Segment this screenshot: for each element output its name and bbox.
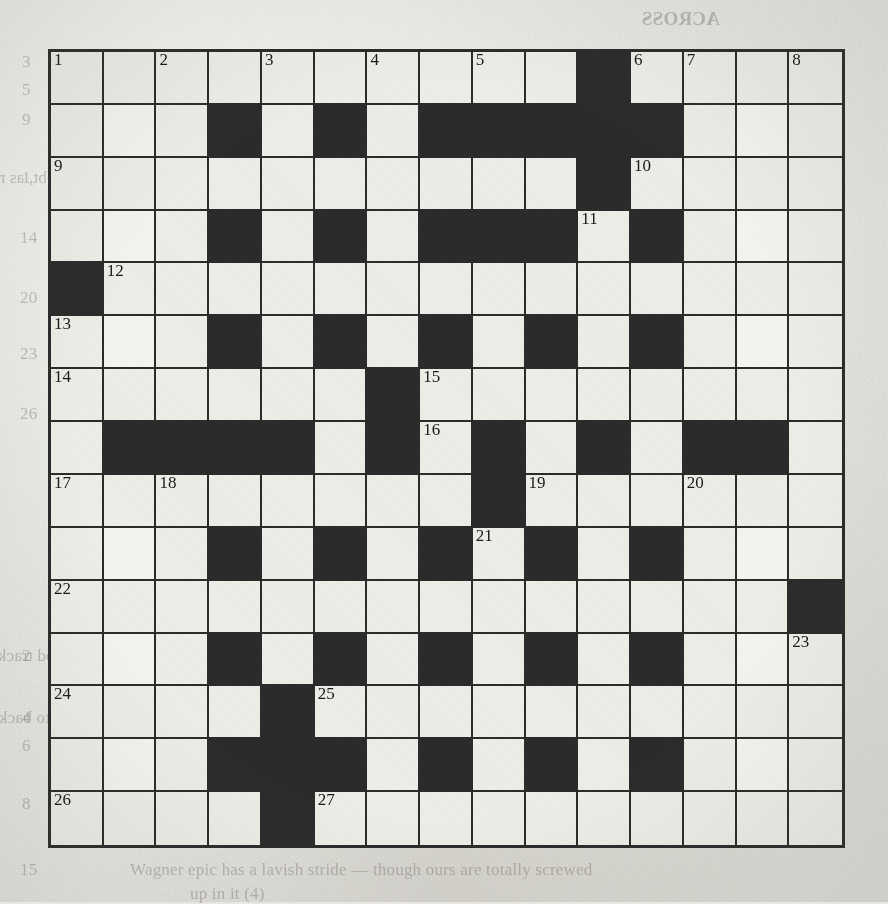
grid-cell[interactable] bbox=[578, 792, 631, 845]
grid-cell[interactable]: 19 bbox=[526, 475, 579, 528]
grid-cell[interactable] bbox=[367, 792, 420, 845]
grid-cell[interactable] bbox=[789, 739, 842, 792]
grid-cell[interactable] bbox=[262, 105, 315, 158]
grid-cell[interactable] bbox=[367, 158, 420, 211]
grid-cell[interactable] bbox=[104, 369, 157, 422]
grid-cell[interactable] bbox=[631, 369, 684, 422]
grid-cell[interactable] bbox=[526, 792, 579, 845]
grid-cell[interactable] bbox=[473, 739, 526, 792]
grid-cell[interactable] bbox=[578, 263, 631, 316]
grid-cell[interactable] bbox=[737, 105, 790, 158]
grid-cell[interactable] bbox=[104, 634, 157, 687]
grid-cell[interactable] bbox=[262, 475, 315, 528]
grid-cell[interactable] bbox=[737, 52, 790, 105]
grid-cell[interactable]: 25 bbox=[315, 686, 368, 739]
grid-cell[interactable]: 3 bbox=[262, 52, 315, 105]
grid-cell[interactable] bbox=[315, 422, 368, 475]
grid-cell[interactable] bbox=[209, 158, 262, 211]
grid-cell[interactable] bbox=[315, 263, 368, 316]
grid-cell[interactable] bbox=[51, 422, 104, 475]
grid-cell[interactable]: 24 bbox=[51, 686, 104, 739]
grid-cell[interactable]: 21 bbox=[473, 528, 526, 581]
grid-cell[interactable]: 12 bbox=[104, 263, 157, 316]
grid-cell[interactable] bbox=[104, 739, 157, 792]
grid-cell[interactable] bbox=[262, 211, 315, 264]
grid-cell[interactable] bbox=[789, 211, 842, 264]
grid-cell[interactable] bbox=[737, 634, 790, 687]
grid-cell[interactable] bbox=[737, 369, 790, 422]
grid-cell[interactable] bbox=[262, 369, 315, 422]
grid-cell[interactable] bbox=[684, 211, 737, 264]
grid-cell[interactable] bbox=[631, 792, 684, 845]
grid-cell[interactable] bbox=[737, 739, 790, 792]
grid-cell[interactable] bbox=[420, 263, 473, 316]
grid-cell[interactable] bbox=[104, 52, 157, 105]
grid-cell[interactable] bbox=[578, 475, 631, 528]
grid-cell[interactable] bbox=[209, 52, 262, 105]
grid-cell[interactable] bbox=[684, 634, 737, 687]
grid-cell[interactable] bbox=[737, 581, 790, 634]
grid-cell[interactable] bbox=[367, 475, 420, 528]
grid-cell[interactable] bbox=[526, 263, 579, 316]
grid-cell[interactable]: 20 bbox=[684, 475, 737, 528]
grid-cell[interactable] bbox=[104, 211, 157, 264]
grid-cell[interactable] bbox=[737, 316, 790, 369]
grid-cell[interactable] bbox=[420, 686, 473, 739]
grid-cell[interactable] bbox=[156, 686, 209, 739]
grid-cell[interactable] bbox=[631, 686, 684, 739]
grid-cell[interactable]: 7 bbox=[684, 52, 737, 105]
grid-cell[interactable] bbox=[209, 792, 262, 845]
grid-cell[interactable] bbox=[262, 158, 315, 211]
grid-cell[interactable] bbox=[526, 581, 579, 634]
grid-cell[interactable] bbox=[737, 792, 790, 845]
grid-cell[interactable] bbox=[789, 105, 842, 158]
grid-cell[interactable]: 8 bbox=[789, 52, 842, 105]
grid-cell[interactable] bbox=[156, 263, 209, 316]
grid-cell[interactable] bbox=[789, 528, 842, 581]
grid-cell[interactable] bbox=[684, 158, 737, 211]
grid-cell[interactable] bbox=[104, 316, 157, 369]
grid-cell[interactable] bbox=[367, 211, 420, 264]
grid-cell[interactable] bbox=[51, 528, 104, 581]
grid-cell[interactable]: 11 bbox=[578, 211, 631, 264]
grid-cell[interactable] bbox=[473, 158, 526, 211]
grid-cell[interactable] bbox=[789, 316, 842, 369]
grid-cell[interactable] bbox=[789, 369, 842, 422]
grid-cell[interactable] bbox=[737, 686, 790, 739]
grid-cell[interactable] bbox=[526, 686, 579, 739]
grid-cell[interactable] bbox=[156, 739, 209, 792]
grid-cell[interactable] bbox=[104, 105, 157, 158]
grid-cell[interactable] bbox=[473, 581, 526, 634]
grid-cell[interactable] bbox=[156, 105, 209, 158]
grid-cell[interactable] bbox=[578, 528, 631, 581]
grid-cell[interactable] bbox=[156, 634, 209, 687]
grid-cell[interactable] bbox=[51, 105, 104, 158]
grid-cell[interactable] bbox=[473, 634, 526, 687]
grid-cell[interactable] bbox=[367, 634, 420, 687]
grid-cell[interactable] bbox=[209, 686, 262, 739]
grid-cell[interactable] bbox=[315, 158, 368, 211]
grid-cell[interactable] bbox=[262, 528, 315, 581]
grid-cell[interactable]: 22 bbox=[51, 581, 104, 634]
grid-cell[interactable] bbox=[104, 581, 157, 634]
grid-cell[interactable] bbox=[684, 792, 737, 845]
grid-cell[interactable] bbox=[367, 263, 420, 316]
grid-cell[interactable] bbox=[737, 158, 790, 211]
grid-cell[interactable] bbox=[367, 528, 420, 581]
grid-cell[interactable] bbox=[473, 792, 526, 845]
grid-cell[interactable] bbox=[684, 686, 737, 739]
grid-cell[interactable] bbox=[420, 158, 473, 211]
grid-cell[interactable] bbox=[367, 105, 420, 158]
grid-cell[interactable] bbox=[789, 686, 842, 739]
grid-cell[interactable]: 6 bbox=[631, 52, 684, 105]
grid-cell[interactable]: 16 bbox=[420, 422, 473, 475]
grid-cell[interactable] bbox=[631, 581, 684, 634]
grid-cell[interactable] bbox=[789, 475, 842, 528]
grid-cell[interactable] bbox=[51, 634, 104, 687]
grid-cell[interactable] bbox=[737, 475, 790, 528]
grid-cell[interactable]: 13 bbox=[51, 316, 104, 369]
grid-cell[interactable] bbox=[684, 369, 737, 422]
grid-cell[interactable]: 1 bbox=[51, 52, 104, 105]
grid-cell[interactable] bbox=[578, 316, 631, 369]
grid-cell[interactable] bbox=[526, 52, 579, 105]
